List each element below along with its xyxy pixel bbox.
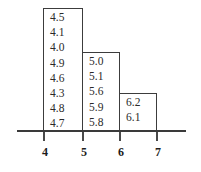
data-value: 4.8 (50, 101, 82, 116)
bar-value-stack: 4.5 4.1 4.0 4.9 4.6 4.3 4.8 4.7 (44, 10, 82, 129)
data-value: 4.9 (50, 56, 82, 71)
data-value: 5.6 (89, 84, 119, 99)
histogram-chart: 4.5 4.1 4.0 4.9 4.6 4.3 4.8 4.7 5.0 5.1 … (0, 0, 201, 172)
data-value: 5.0 (89, 54, 119, 69)
histogram-bar-5-6[interactable]: 5.0 5.1 5.6 5.9 5.8 (82, 52, 120, 131)
x-axis-tick-6 (119, 132, 121, 141)
x-axis-label-4: 4 (33, 145, 57, 159)
bar-value-stack: 6.2 6.1 (120, 95, 156, 129)
x-axis-tick-5 (82, 132, 84, 141)
data-value: 4.7 (50, 116, 82, 131)
data-value: 4.5 (50, 10, 82, 25)
x-axis-label-5: 5 (72, 145, 96, 159)
data-value: 5.1 (89, 69, 119, 84)
data-value: 4.6 (50, 71, 82, 86)
data-value: 4.0 (50, 40, 82, 55)
bar-value-stack: 5.0 5.1 5.6 5.9 5.8 (83, 54, 119, 129)
histogram-bar-4-5[interactable]: 4.5 4.1 4.0 4.9 4.6 4.3 4.8 4.7 (43, 8, 83, 131)
data-value: 6.2 (126, 95, 156, 110)
data-value: 4.1 (50, 25, 82, 40)
data-value: 4.3 (50, 86, 82, 101)
x-axis-label-6: 6 (109, 145, 133, 159)
x-axis-label-7: 7 (146, 145, 170, 159)
data-value: 5.8 (89, 115, 119, 130)
data-value: 6.1 (126, 110, 156, 125)
histogram-bar-6-7[interactable]: 6.2 6.1 (119, 93, 157, 131)
x-axis-tick-4 (43, 132, 45, 141)
data-value: 5.9 (89, 100, 119, 115)
x-axis-tick-7 (156, 132, 158, 141)
